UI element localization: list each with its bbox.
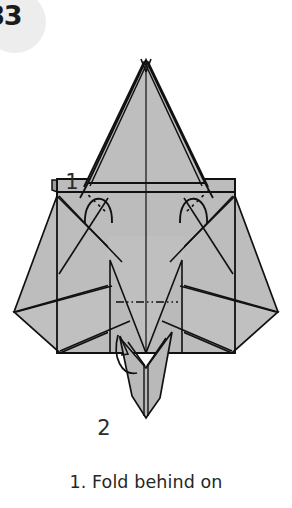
origami-diagram: 1 2 — [0, 46, 292, 456]
step-label-1: 1 — [65, 170, 78, 194]
origami-diagram-svg: 1 2 — [0, 46, 292, 456]
page-canvas: 83 — [0, 0, 292, 508]
figure-caption: 1. Fold behind on — [0, 472, 292, 492]
step-label-2: 2 — [97, 416, 110, 440]
page-number-label: 83 — [0, 2, 22, 29]
